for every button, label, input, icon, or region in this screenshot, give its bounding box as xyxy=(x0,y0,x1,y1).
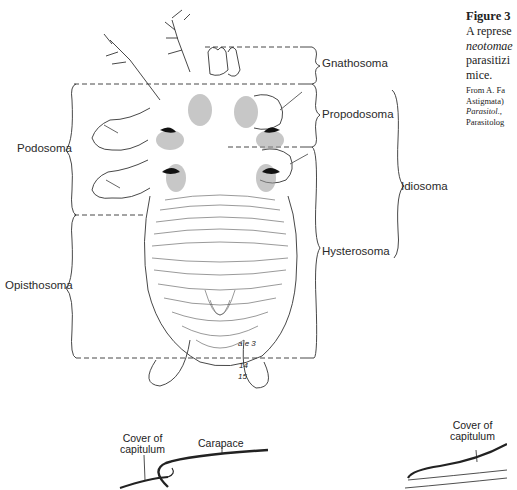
seta-label-14: 14 xyxy=(239,360,248,371)
figure-caption: Figure 3 A represe neotomae parasitizi m… xyxy=(466,8,517,127)
label-idiosoma: Idiosoma xyxy=(401,180,448,192)
seta-label-ae3: a e 3 xyxy=(238,338,256,349)
caption-line-1: A represe xyxy=(466,24,517,39)
hysterosoma-brace xyxy=(312,147,320,358)
label-propodosoma: Propodosoma xyxy=(322,108,394,120)
label-hysterosoma: Hysterosoma xyxy=(322,245,390,257)
seta-label-15: 15 xyxy=(238,371,247,382)
carapace-line xyxy=(158,450,268,487)
label-opisthosoma: Opisthosoma xyxy=(5,279,73,291)
gnathosoma-brace xyxy=(312,47,320,84)
caption-line-4: mice. xyxy=(466,68,517,83)
caption-line-2: neotomae xyxy=(466,39,517,54)
caption-line-3: parasitizi xyxy=(466,53,517,68)
label-gnathosoma: Gnathosoma xyxy=(322,57,388,69)
figure-title: Figure 3 xyxy=(466,8,517,24)
label-carapace: Carapace xyxy=(198,438,244,449)
label-cover-of-capitulum-left: Cover of capitulum xyxy=(120,433,165,455)
propodosoma-brace xyxy=(312,84,320,147)
idiosoma-outline xyxy=(144,196,297,366)
label-podosoma: Podosoma xyxy=(17,142,72,154)
source-citation: From A. Fa Astigmata) Parasitol., Parasi… xyxy=(466,85,517,127)
label-cover-of-capitulum-right: Cover of capitulum xyxy=(450,420,495,442)
